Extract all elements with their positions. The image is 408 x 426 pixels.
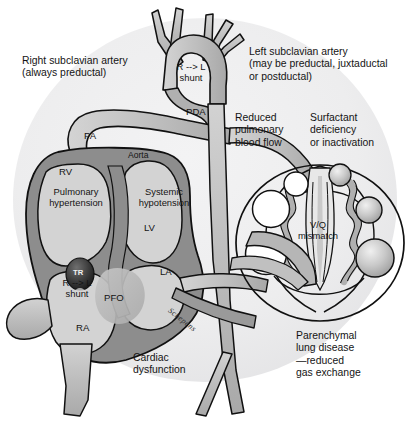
callout-cardiac-dysfunction: Cardiacdysfunction <box>133 352 186 377</box>
callout-parenchymal-lung-disease: Parenchymallung disease—reducedgas excha… <box>296 330 361 379</box>
label-right-atrium: RA <box>76 322 89 333</box>
figure-canvas: Right subclavian artery(always preductal… <box>0 0 408 426</box>
label-left-atrium: LA <box>160 266 172 277</box>
left-ventricle-chamber <box>120 161 182 263</box>
label-atrial-right-to-left-shunt: R --> Lshunt <box>50 277 104 299</box>
label-systemic-hypotension: Systemichypotension <box>122 186 206 208</box>
label-right-ventricle: RV <box>59 166 72 177</box>
label-pulmonary-artery: PA <box>84 130 96 141</box>
callout-reduced-pulmonary-blood-flow: Reducedpulmonaryblood flow <box>235 112 284 149</box>
right-ventricle-chamber <box>38 164 111 266</box>
callout-surfactant-deficiency: Surfactantdeficiencyor inactivation <box>310 112 374 149</box>
label-ventilation-perfusion-mismatch: V/Qmismatch <box>286 219 350 241</box>
label-patent-foramen-ovale: PFO <box>104 292 124 303</box>
label-left-ventricle: LV <box>144 222 155 233</box>
callout-left-subclavian-artery: Left subclavian artery(may be preductal,… <box>249 46 388 83</box>
label-tricuspid-regurgitation: TR <box>73 269 84 278</box>
label-pulmonary-hypertension: Pulmonaryhypertension <box>28 186 124 208</box>
label-ductal-right-to-left-shunt: R --> Lshunt <box>166 61 216 83</box>
label-aorta: Aorta <box>128 150 149 160</box>
callout-right-subclavian-artery: Right subclavian artery(always preductal… <box>22 55 128 80</box>
label-patent-ductus-arteriosus: PDA <box>186 106 206 117</box>
